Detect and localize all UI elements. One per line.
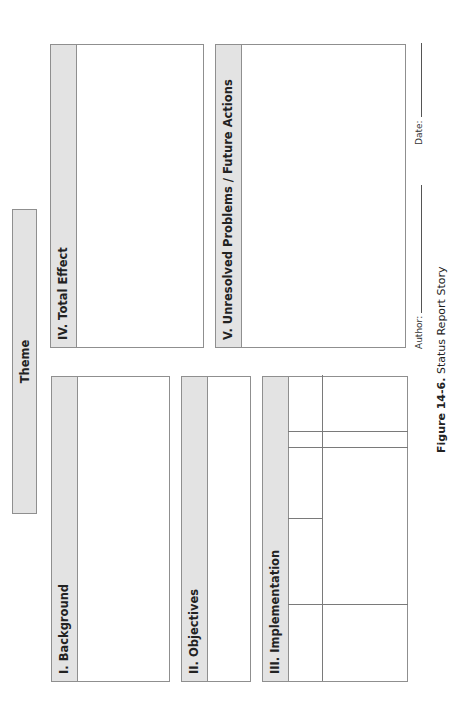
section-objectives-header: II. Objectives [182, 377, 208, 681]
section-unresolved-problems-header: V. Unresolved Problems / Future Actions [216, 45, 242, 347]
section-background-header: I. Background [52, 377, 78, 681]
section-total-effect-header: IV. Total Effect [51, 45, 77, 347]
author-field[interactable]: Author: [410, 184, 424, 349]
figure-title: Status Report Story [435, 267, 448, 375]
status-report-story-form: Theme I. Background II. Objectives III. … [0, 0, 461, 719]
implementation-row-divider [322, 375, 323, 681]
implementation-col-divider-2 [288, 518, 322, 519]
section-objectives: II. Objectives [181, 376, 251, 682]
implementation-col-divider-4 [288, 431, 408, 432]
author-line[interactable] [421, 185, 422, 313]
figure-caption: Figure 14-6. Status Report Story [435, 267, 451, 454]
date-line[interactable] [421, 43, 422, 117]
section-total-effect: IV. Total Effect [50, 44, 204, 348]
implementation-col-divider-1 [288, 604, 408, 605]
theme-label: Theme [18, 340, 32, 384]
date-label: Date: [414, 120, 424, 145]
section-background: I. Background [51, 376, 170, 682]
date-field[interactable]: Date: [410, 42, 424, 145]
section-unresolved-problems: V. Unresolved Problems / Future Actions [215, 44, 406, 348]
author-label: Author: [414, 316, 424, 349]
implementation-col-divider-3 [288, 447, 408, 448]
section-implementation-header: III. Implementation [263, 377, 289, 681]
section-implementation: III. Implementation [262, 376, 408, 682]
figure-number: Figure 14-6. [435, 378, 448, 453]
theme-banner: Theme [12, 209, 37, 514]
